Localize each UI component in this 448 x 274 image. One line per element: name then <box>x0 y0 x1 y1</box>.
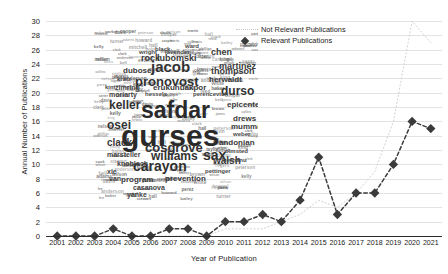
x-tick-label: 2009 <box>199 239 215 247</box>
y-tick-label: 22 <box>32 74 40 83</box>
data-point-marker <box>183 224 192 233</box>
x-tick-label: 2011 <box>236 239 251 247</box>
legend-label: Not Relevant Publications <box>261 25 346 34</box>
y-tick-label: 2 <box>36 217 40 226</box>
diamond-marker-icon <box>236 36 258 45</box>
x-tick-label: 2012 <box>255 239 271 247</box>
y-tick-label: 26 <box>32 45 40 54</box>
x-tick-label: 2015 <box>311 239 327 247</box>
y-tick-label: 28 <box>32 31 40 40</box>
x-tick-label: 2014 <box>292 239 308 247</box>
data-point-marker <box>370 188 379 197</box>
data-point-marker <box>295 196 304 205</box>
data-point-marker <box>407 117 416 126</box>
data-point-marker <box>426 124 435 133</box>
y-axis-ticks: 024681012141618202224262830 <box>0 14 44 236</box>
y-tick-label: 20 <box>32 88 40 97</box>
x-tick-label: 2010 <box>217 239 233 247</box>
x-tick-label: 2020 <box>404 239 420 247</box>
legend-item-relevant: Relevant Publications <box>236 35 346 46</box>
y-tick-label: 6 <box>36 189 40 198</box>
y-tick-label: 18 <box>32 103 40 112</box>
x-axis-ticks: 2001200220032004200520062007200820092010… <box>46 239 442 251</box>
data-point-marker <box>333 210 342 219</box>
x-tick-label: 2017 <box>348 239 364 247</box>
data-point-marker <box>239 217 248 226</box>
x-tick-label: 2007 <box>161 239 177 247</box>
x-tick-label: 2006 <box>143 239 159 247</box>
data-point-marker <box>314 153 323 162</box>
legend-item-not-relevant: Not Relevant Publications <box>236 24 346 35</box>
x-tick-label: 2021 <box>423 239 439 247</box>
data-point-marker <box>109 224 118 233</box>
y-tick-label: 30 <box>32 17 40 26</box>
data-point-marker <box>258 210 267 219</box>
x-axis-line <box>46 236 442 237</box>
y-tick-label: 14 <box>32 131 40 140</box>
x-tick-label: 2019 <box>386 239 402 247</box>
x-tick-label: 2005 <box>124 239 140 247</box>
x-tick-label: 2013 <box>273 239 289 247</box>
legend-label: Relevant Publications <box>261 36 332 45</box>
x-axis-title: Year of Publication <box>0 254 448 263</box>
series-line-not-relevant <box>57 21 431 236</box>
publication-trend-chart: Annual Number of Publications 0246810121… <box>0 0 448 274</box>
x-tick-label: 2008 <box>180 239 196 247</box>
x-tick-label: 2002 <box>68 239 84 247</box>
y-tick-label: 24 <box>32 60 40 69</box>
data-series-layer <box>46 14 442 236</box>
y-tick-label: 0 <box>36 232 40 241</box>
x-tick-label: 2001 <box>49 239 65 247</box>
data-point-marker <box>389 160 398 169</box>
x-tick-label: 2018 <box>367 239 383 247</box>
y-tick-label: 16 <box>32 117 40 126</box>
chart-legend: Not Relevant Publications Relevant Publi… <box>236 24 346 46</box>
y-tick-label: 8 <box>36 174 40 183</box>
x-tick-label: 2003 <box>87 239 103 247</box>
x-tick-label: 2016 <box>330 239 346 247</box>
y-tick-label: 4 <box>36 203 40 212</box>
data-point-marker <box>165 224 174 233</box>
x-tick-label: 2004 <box>105 239 121 247</box>
y-tick-label: 12 <box>32 146 40 155</box>
dotted-line-icon <box>236 25 258 34</box>
y-tick-label: 10 <box>32 160 40 169</box>
